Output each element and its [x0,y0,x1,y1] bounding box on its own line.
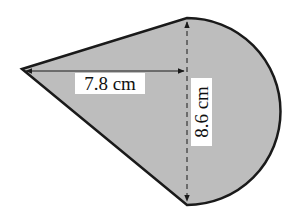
horizontal-label-text: 7.8 cm [84,73,136,94]
shape-figure: 7.8 cm 8.6 cm [0,0,294,214]
vertical-measure-label: 8.6 cm [191,78,212,146]
diagram-canvas: 7.8 cm 8.6 cm [0,0,294,214]
horizontal-measure-label: 7.8 cm [75,73,145,94]
composite-shape [22,18,281,205]
vertical-label-text: 8.6 cm [191,86,212,138]
